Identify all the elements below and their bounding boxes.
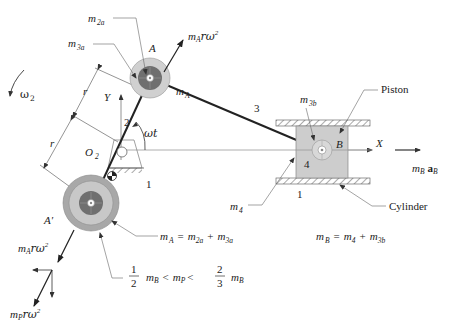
- r-upper-label: r: [83, 85, 88, 97]
- svg-text:3: 3: [217, 277, 223, 289]
- m3a-label: m3a: [68, 37, 85, 52]
- center-of-mass-symbol: [108, 172, 117, 181]
- mB-aB-label: mBaB: [412, 162, 438, 176]
- link-2-label: 2: [124, 116, 130, 128]
- point-A-prime-label: A′: [43, 214, 54, 226]
- m2a-label: m2a: [88, 12, 105, 27]
- wrist-pin-B: [312, 140, 332, 160]
- svg-text:2: 2: [217, 263, 223, 275]
- y-axis-label: Y: [104, 91, 112, 103]
- mP-range-inequality: 1 2 mB<mP< 2 3 mB: [129, 263, 244, 289]
- mA-force-upper-label: mArω2: [188, 29, 219, 44]
- mA-force-lower-label: mArω2: [18, 241, 49, 256]
- ground-1-right-label: 1: [297, 188, 303, 200]
- piston-label: Piston: [381, 83, 409, 95]
- link-4-label: 4: [304, 158, 310, 170]
- ground-1-left-label: 1: [146, 178, 152, 190]
- o2-label: O2: [85, 146, 99, 161]
- link-3-label: 3: [254, 102, 260, 114]
- cylinder-leader: [340, 185, 386, 206]
- mP-force-label: mPrω2: [10, 307, 41, 322]
- svg-text:2: 2: [131, 277, 137, 289]
- cylinder-label: Cylinder: [389, 200, 428, 212]
- x-axis-label: X: [375, 137, 384, 149]
- mP-force-components: [33, 270, 52, 306]
- o2-pivot-pin: [117, 147, 127, 157]
- mA-force-arrow-lower: [58, 230, 74, 262]
- svg-text:1: 1: [131, 263, 137, 275]
- r-lower-label: r: [50, 137, 55, 149]
- mP-range-leader: [100, 233, 123, 278]
- point-A-label: A: [148, 42, 156, 54]
- m4-label: m4: [230, 200, 243, 215]
- svg-text:mB: mB: [231, 271, 244, 285]
- omega2-label: ω2: [20, 88, 35, 103]
- slider-crank-diagram: X Y r r ω2 O2 1 2 ωt 3: [0, 0, 450, 328]
- counterweight-disc-A-prime: [63, 175, 119, 231]
- m3a-leader: [93, 44, 136, 78]
- mA-label: mA: [176, 85, 190, 100]
- mA-eq-leader: [112, 221, 158, 236]
- point-B-label: B: [336, 138, 343, 150]
- m3b-label: m3b: [300, 93, 317, 108]
- mB-equation: mB=m4+m3b: [316, 230, 385, 245]
- svg-text:mB<mP<: mB<mP<: [146, 271, 194, 285]
- mA-force-arrow-upper: [164, 40, 183, 72]
- omega-t-label: ωt: [144, 127, 158, 140]
- mA-equation: mA=m2a+m3a: [160, 230, 233, 245]
